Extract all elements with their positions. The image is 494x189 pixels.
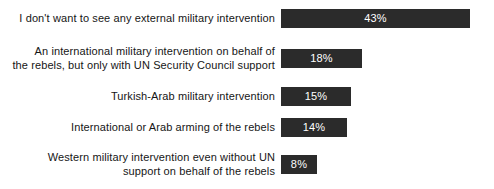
horizontal-bar-chart: I don't want to see any external militar…	[0, 0, 494, 189]
category-label: I don't want to see any external militar…	[0, 11, 275, 25]
bar-track: 15%	[281, 87, 494, 106]
bar: 15%	[281, 87, 351, 106]
category-label: Turkish-Arab military intervention	[0, 89, 275, 103]
chart-row: Turkish-Arab military intervention 15%	[0, 82, 494, 110]
bar-value-label: 18%	[310, 52, 333, 64]
chart-row: International or Arab arming of the rebe…	[0, 113, 494, 141]
bar-track: 43%	[281, 9, 494, 28]
bar-value-label: 43%	[364, 12, 387, 24]
bar: 14%	[281, 118, 347, 137]
bar-track: 14%	[281, 118, 494, 137]
chart-row: Western military intervention even witho…	[0, 150, 494, 178]
bar-track: 18%	[281, 49, 494, 68]
category-label: Western military intervention even witho…	[0, 150, 275, 178]
category-label: International or Arab arming of the rebe…	[0, 120, 275, 134]
chart-row: An international military intervention o…	[0, 44, 494, 72]
bar-value-label: 14%	[303, 121, 326, 133]
bar-track: 8%	[281, 155, 494, 174]
chart-row: I don't want to see any external militar…	[0, 4, 494, 32]
bar: 43%	[281, 9, 470, 28]
bar-value-label: 8%	[291, 158, 307, 170]
category-label: An international military intervention o…	[0, 44, 275, 72]
bar-value-label: 15%	[305, 90, 328, 102]
bar: 18%	[281, 49, 362, 68]
bar: 8%	[281, 155, 317, 174]
